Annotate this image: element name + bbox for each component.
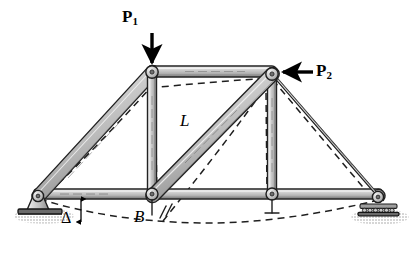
deflection-tick-right bbox=[265, 200, 279, 213]
load-label-p2-symbol: P bbox=[316, 61, 326, 80]
deflection-label: Δ bbox=[61, 210, 71, 226]
member-vertical-right bbox=[268, 74, 277, 196]
member-bottom-chord bbox=[34, 189, 382, 199]
load-label-p1-subscript: 1 bbox=[132, 15, 138, 27]
member-top-chord bbox=[147, 66, 277, 77]
load-label-p1: P1 bbox=[122, 8, 138, 25]
member-left-diagonal bbox=[32, 65, 159, 202]
joint-top-right bbox=[266, 68, 278, 80]
load-label-p2: P2 bbox=[316, 62, 332, 79]
joint-top-left bbox=[146, 66, 158, 78]
member-right-diagonal bbox=[266, 70, 385, 201]
joint-b-label: B bbox=[134, 208, 144, 225]
truss-figure: P1 P2 L B Δ bbox=[0, 0, 413, 258]
joint-bottom-right bbox=[266, 188, 278, 200]
load-label-p2-subscript: 2 bbox=[326, 69, 332, 81]
member-vertical-left bbox=[148, 72, 157, 196]
member-center-diagonal bbox=[146, 67, 279, 202]
load-label-p1-symbol: P bbox=[122, 7, 132, 26]
member-length-label: L bbox=[180, 112, 189, 129]
joint-b bbox=[146, 188, 158, 200]
